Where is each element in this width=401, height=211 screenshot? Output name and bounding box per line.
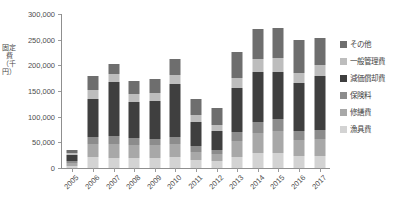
bar-segment[interactable]: [211, 154, 222, 161]
bar-group[interactable]: [83, 14, 104, 168]
bar-segment[interactable]: [108, 82, 119, 136]
bar-group[interactable]: [62, 14, 83, 168]
bar-segment[interactable]: [108, 74, 119, 82]
bar-segment[interactable]: [190, 99, 201, 115]
bar-segment[interactable]: [129, 81, 140, 94]
bar-segment[interactable]: [129, 158, 140, 168]
bar-segment[interactable]: [273, 131, 284, 153]
bar-group[interactable]: [227, 14, 248, 168]
bar-segment[interactable]: [149, 139, 160, 146]
bar-segment[interactable]: [87, 99, 98, 138]
bar-segment[interactable]: [273, 72, 284, 119]
bar-segment[interactable]: [314, 38, 325, 65]
bar-segment[interactable]: [232, 157, 243, 168]
stacked-bar[interactable]: [108, 64, 119, 168]
bar-segment[interactable]: [170, 144, 181, 157]
bar-group[interactable]: [124, 14, 145, 168]
bar-group[interactable]: [165, 14, 186, 168]
bar-segment[interactable]: [211, 161, 222, 168]
bar-segment[interactable]: [314, 130, 325, 139]
bar-segment[interactable]: [129, 102, 140, 138]
bar-segment[interactable]: [314, 65, 325, 76]
bar-group[interactable]: [144, 14, 165, 168]
stacked-bar[interactable]: [314, 38, 325, 168]
bar-segment[interactable]: [108, 158, 119, 168]
bar-segment[interactable]: [170, 75, 181, 84]
bar-segment[interactable]: [108, 144, 119, 158]
legend-item[interactable]: 一般管理費: [340, 53, 398, 70]
bar-segment[interactable]: [314, 76, 325, 130]
bar-segment[interactable]: [273, 58, 284, 71]
stacked-bar[interactable]: [149, 79, 160, 168]
bar-segment[interactable]: [252, 29, 263, 59]
stacked-bar[interactable]: [252, 29, 263, 168]
bar-segment[interactable]: [252, 133, 263, 154]
bar-group[interactable]: [309, 14, 330, 168]
bar-segment[interactable]: [87, 76, 98, 89]
bar-group[interactable]: [186, 14, 207, 168]
bar-segment[interactable]: [294, 73, 305, 84]
bar-segment[interactable]: [170, 157, 181, 168]
bar-segment[interactable]: [252, 72, 263, 122]
bar-segment[interactable]: [232, 78, 243, 88]
bar-segment[interactable]: [108, 136, 119, 144]
bar-segment[interactable]: [252, 153, 263, 168]
stacked-bar[interactable]: [170, 59, 181, 168]
bar-segment[interactable]: [129, 94, 140, 102]
bar-segment[interactable]: [252, 122, 263, 133]
bar-segment[interactable]: [294, 140, 305, 156]
stacked-bar[interactable]: [232, 52, 243, 168]
bar-segment[interactable]: [149, 145, 160, 157]
bar-group[interactable]: [206, 14, 227, 168]
bar-segment[interactable]: [87, 137, 98, 144]
bar-segment[interactable]: [190, 160, 201, 168]
legend-item[interactable]: 漁具費: [340, 121, 398, 138]
bar-group[interactable]: [268, 14, 289, 168]
bar-segment[interactable]: [190, 122, 201, 147]
legend-item[interactable]: その他: [340, 36, 398, 53]
stacked-bar[interactable]: [273, 28, 284, 168]
bar-segment[interactable]: [273, 28, 284, 58]
bar-segment[interactable]: [314, 139, 325, 156]
bar-segment[interactable]: [129, 138, 140, 145]
stacked-bar[interactable]: [67, 150, 78, 168]
stacked-bar[interactable]: [294, 40, 305, 168]
bar-segment[interactable]: [273, 119, 284, 131]
bar-segment[interactable]: [294, 40, 305, 72]
bar-segment[interactable]: [252, 59, 263, 72]
stacked-bar[interactable]: [87, 76, 98, 168]
bar-segment[interactable]: [232, 88, 243, 132]
stacked-bar[interactable]: [190, 99, 201, 168]
bar-segment[interactable]: [87, 90, 98, 99]
bar-segment[interactable]: [232, 132, 243, 141]
bar-group[interactable]: [289, 14, 310, 168]
bar-segment[interactable]: [149, 101, 160, 138]
legend-item[interactable]: 修繕費: [340, 104, 398, 121]
bar-segment[interactable]: [87, 157, 98, 168]
bar-segment[interactable]: [149, 93, 160, 101]
bar-segment[interactable]: [170, 59, 181, 75]
bar-segment[interactable]: [108, 64, 119, 74]
bar-segment[interactable]: [211, 131, 222, 149]
bar-segment[interactable]: [149, 79, 160, 93]
bar-segment[interactable]: [294, 156, 305, 168]
bar-segment[interactable]: [170, 84, 181, 137]
bar-segment[interactable]: [87, 144, 98, 157]
bar-segment[interactable]: [232, 141, 243, 157]
bar-segment[interactable]: [232, 52, 243, 79]
bar-group[interactable]: [103, 14, 124, 168]
bar-segment[interactable]: [190, 152, 201, 160]
bar-segment[interactable]: [129, 145, 140, 158]
bar-segment[interactable]: [294, 83, 305, 130]
legend-item[interactable]: 減価償却費: [340, 70, 398, 87]
bar-segment[interactable]: [211, 108, 222, 125]
stacked-bar[interactable]: [211, 108, 222, 168]
bar-segment[interactable]: [314, 156, 325, 168]
legend-item[interactable]: 保険料: [340, 87, 398, 104]
bar-segment[interactable]: [170, 137, 181, 144]
bar-segment[interactable]: [273, 153, 284, 168]
bar-group[interactable]: [248, 14, 269, 168]
stacked-bar[interactable]: [129, 81, 140, 168]
bar-segment[interactable]: [67, 155, 78, 162]
bar-segment[interactable]: [294, 131, 305, 140]
